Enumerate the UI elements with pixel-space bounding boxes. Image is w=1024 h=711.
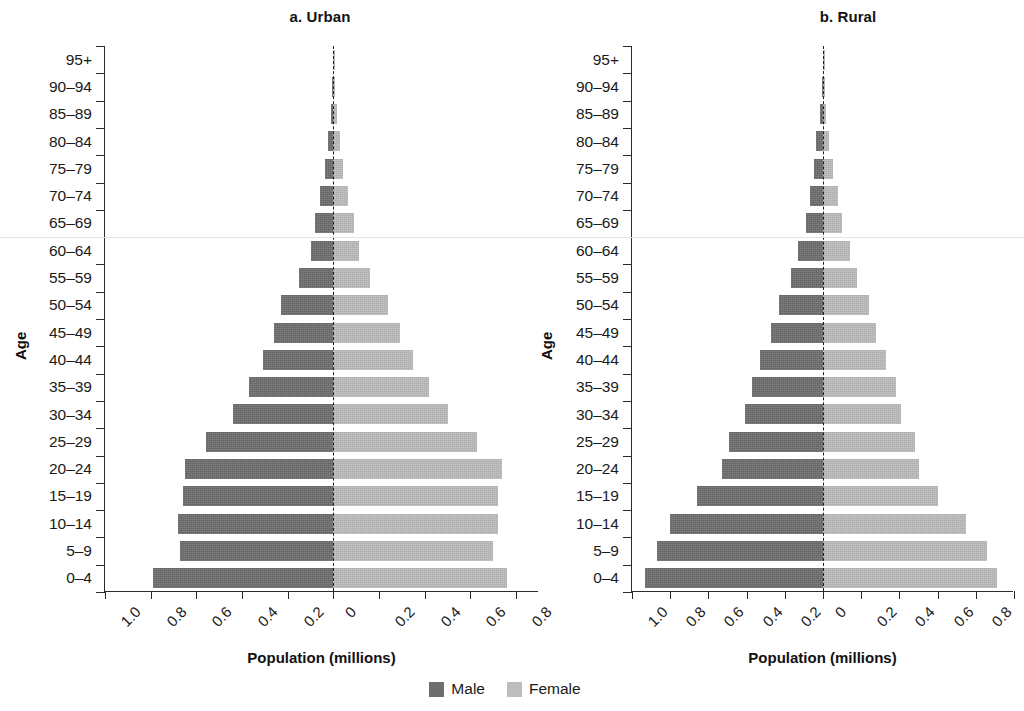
- bar-female: [823, 432, 915, 452]
- population-pyramid-figure: a. Urban Age Population (millions) 0–45–…: [0, 0, 1024, 711]
- y-axis-tick-label: 95+: [66, 51, 92, 69]
- legend-label: Male: [451, 680, 485, 698]
- bar-male: [281, 295, 334, 315]
- x-axis-tick: [861, 591, 862, 599]
- zero-axis-line-rural: [823, 46, 824, 591]
- bar-row: [105, 155, 538, 182]
- y-axis-tick: [96, 456, 105, 457]
- bar-female: [823, 323, 876, 343]
- bar-female: [333, 159, 342, 179]
- bar-row: [105, 374, 538, 401]
- y-axis-tick-label: 15–19: [576, 487, 619, 505]
- y-axis-tick-label: 90–94: [49, 78, 92, 96]
- y-axis-tick: [623, 483, 632, 484]
- y-axis-tick-label: 90–94: [576, 78, 619, 96]
- bar-female: [333, 432, 477, 452]
- y-axis-tick: [623, 592, 632, 593]
- y-axis-title-urban: Age: [12, 332, 29, 360]
- bar-male: [274, 323, 333, 343]
- plot-area-rural: Population (millions) 0–45–910–1415–1920…: [631, 46, 1013, 592]
- x-axis-tick-label: 0.2: [300, 603, 327, 630]
- chart-panel-rural: b. Rural Population (millions) 0–45–910–…: [556, 0, 1024, 680]
- bar-female: [823, 350, 886, 370]
- bar-row: [105, 128, 538, 155]
- y-axis-tick: [96, 346, 105, 347]
- legend-swatch-male: [429, 682, 444, 697]
- bar-male: [325, 159, 333, 179]
- bar-female: [333, 404, 447, 424]
- y-axis-tick: [96, 592, 105, 593]
- bar-row: [105, 346, 538, 373]
- y-axis-tick: [96, 374, 105, 375]
- y-axis-tick-label: 55–59: [49, 269, 92, 287]
- bar-male: [745, 404, 823, 424]
- y-axis-tick-label: 75–79: [49, 160, 92, 178]
- bar-row: [105, 237, 538, 264]
- bar-female: [333, 323, 399, 343]
- bar-female: [333, 350, 413, 370]
- x-axis-tick-label: 1.0: [117, 603, 144, 630]
- x-axis-tick: [242, 591, 243, 599]
- x-axis-tick: [976, 591, 977, 599]
- bar-male: [153, 568, 333, 588]
- y-axis-tick: [623, 155, 632, 156]
- bar-male: [791, 268, 823, 288]
- bar-row: [105, 510, 538, 537]
- bar-female: [333, 295, 388, 315]
- y-axis-tick: [96, 292, 105, 293]
- bar-male: [806, 213, 823, 233]
- bar-male: [315, 213, 333, 233]
- y-axis-tick-label: 85–89: [49, 105, 92, 123]
- x-axis-tick-label: 0.6: [483, 603, 510, 630]
- y-axis-tick-label: 70–74: [576, 187, 619, 205]
- bar-female: [823, 213, 842, 233]
- bar-row: [105, 292, 538, 319]
- legend-label: Female: [529, 680, 581, 698]
- bar-row: [105, 73, 538, 100]
- y-axis-tick-label: 95+: [593, 51, 619, 69]
- bar-male: [311, 241, 334, 261]
- y-axis-tick: [623, 319, 632, 320]
- y-axis-tick-label: 40–44: [49, 351, 92, 369]
- bar-row: [105, 565, 538, 592]
- y-axis-tick: [96, 401, 105, 402]
- y-axis-tick-label: 60–64: [49, 242, 92, 260]
- bar-female: [823, 377, 896, 397]
- bar-female: [333, 486, 497, 506]
- bar-female: [823, 541, 987, 561]
- x-axis-tick: [708, 591, 709, 599]
- x-axis-tick: [425, 591, 426, 599]
- x-axis-tick-label: 0.8: [682, 603, 709, 630]
- bar-male: [779, 295, 823, 315]
- y-axis-tick-label: 35–39: [49, 378, 92, 396]
- bar-row: [105, 319, 538, 346]
- x-axis-tick: [785, 591, 786, 599]
- x-axis-tick-label: 0.2: [797, 603, 824, 630]
- bar-male: [814, 159, 823, 179]
- x-axis-tick-label: 0.8: [528, 603, 555, 630]
- x-axis-tick-label: 0.4: [437, 603, 464, 630]
- bar-row: [105, 210, 538, 237]
- x-axis-tick: [379, 591, 380, 599]
- y-axis-tick: [96, 537, 105, 538]
- y-axis-tick: [96, 101, 105, 102]
- bar-male: [729, 432, 823, 452]
- y-axis-tick-label: 25–29: [49, 433, 92, 451]
- bar-female: [333, 186, 348, 206]
- bar-female: [823, 268, 857, 288]
- y-axis-tick: [623, 128, 632, 129]
- bar-female: [333, 541, 493, 561]
- y-axis-tick: [623, 264, 632, 265]
- bar-male: [645, 568, 823, 588]
- bar-male: [233, 404, 334, 424]
- x-axis-tick-label: 0.2: [391, 603, 418, 630]
- bar-female: [823, 568, 997, 588]
- y-axis-tick: [623, 428, 632, 429]
- bar-female: [333, 268, 370, 288]
- y-axis-tick: [96, 483, 105, 484]
- bar-female: [333, 241, 358, 261]
- legend-item-female: Female: [507, 680, 581, 698]
- bar-row: [105, 456, 538, 483]
- x-axis-title-urban: Population (millions): [105, 649, 538, 666]
- y-axis-tick-label: 35–39: [576, 378, 619, 396]
